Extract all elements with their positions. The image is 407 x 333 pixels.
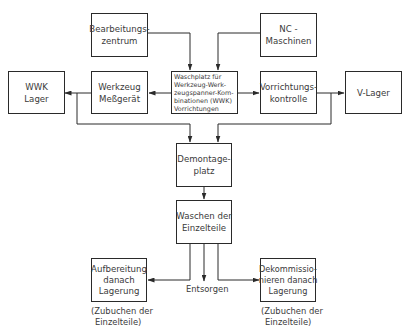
node-text: Lager (24, 93, 48, 105)
node-bearbeitungszentrum: Bearbeitungs- zentrum (91, 13, 148, 57)
note-text: Einzelteile) (261, 317, 323, 328)
node-wwk-lager: WWK Lager (8, 71, 65, 114)
node-text: Vorrichtungs- (260, 81, 317, 93)
note-text: Einzelteile) (91, 317, 153, 328)
node-text: Werkzeug-Werk- (174, 81, 226, 89)
node-text: Vorrichtungen (174, 105, 219, 113)
node-text: Meßgerät (99, 93, 140, 105)
note-right: (Zubuchen der Einzelteile) (261, 306, 323, 328)
node-text: binationen (WWK) (174, 97, 232, 105)
node-text: Lagerung (99, 286, 140, 297)
node-text: Einzelteile (182, 222, 226, 234)
node-text: Lagerung (269, 286, 308, 297)
node-text: Maschinen (266, 35, 312, 47)
node-text: nieren danach (259, 275, 318, 286)
node-v-lager: V-Lager (345, 71, 402, 114)
node-text: Bearbeitungs- (89, 23, 149, 35)
note-text: (Zubuchen der (91, 306, 153, 317)
node-aufbereitung: Aufbereitung danach Lagerung (91, 258, 147, 302)
node-text: NC - (279, 23, 297, 35)
note-left: (Zubuchen der Einzelteile) (91, 306, 153, 328)
node-waschplatz: Waschplatz für Werkzeug-Werk- zeugspanne… (171, 71, 238, 114)
node-text: platz (194, 165, 215, 177)
node-nc-maschinen: NC - Maschinen (260, 13, 317, 57)
flow-diagram: Bearbeitungs- zentrum NC - Maschinen WWK… (0, 0, 407, 333)
node-text: Demontage- (177, 153, 230, 165)
node-werkzeug-messgeraet: Werkzeug Meßgerät (91, 71, 148, 114)
node-text: zeugspanner-Kom- (174, 89, 234, 97)
label-entsorgen: Entsorgen (186, 284, 228, 295)
node-dekommissionieren: Dekommissio- nieren danach Lagerung (260, 258, 316, 302)
node-text: danach (103, 275, 135, 286)
node-text: zentrum (102, 35, 138, 47)
node-text: Werkzeug (98, 81, 141, 93)
note-text: (Zubuchen der (261, 306, 323, 317)
node-text: Dekommissio- (259, 264, 317, 275)
node-waschen-der-einzelteile: Waschen der Einzelteile (176, 200, 232, 244)
node-demontageplatz: Demontage- platz (176, 143, 232, 187)
node-text: V-Lager (357, 87, 390, 99)
node-vorrichtungskontrolle: Vorrichtungs- kontrolle (260, 71, 317, 114)
node-text: Waschplatz für (174, 73, 221, 81)
node-text: WWK (25, 81, 48, 93)
node-text: kontrolle (270, 93, 307, 105)
node-text: Waschen der (176, 210, 232, 222)
node-text: Aufbereitung (91, 264, 147, 275)
